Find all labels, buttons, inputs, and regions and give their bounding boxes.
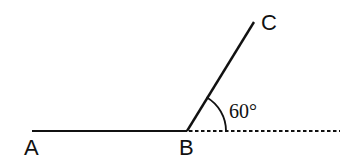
label-a: A (24, 135, 39, 160)
label-c: C (261, 10, 277, 35)
angle-arc (207, 97, 227, 131)
angle-diagram: A B C 60° (0, 0, 348, 160)
angle-label: 60° (229, 100, 257, 122)
label-b: B (179, 135, 194, 160)
